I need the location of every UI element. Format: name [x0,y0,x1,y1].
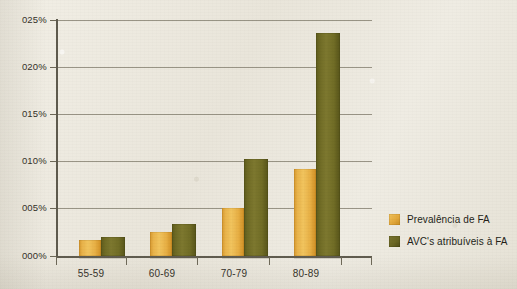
y-tick-010 [50,161,56,162]
bar-avc-80-89 [316,33,340,256]
bar-prevalencia-60-69 [150,232,172,256]
x-axis-label-80-89: 80-89 [276,268,336,279]
y-tick-005 [50,208,56,209]
legend-label-prevalencia: Prevalência de FA [407,214,490,225]
y-axis-label-010: 010% [0,155,47,166]
x-tick-4 [341,257,342,265]
y-axis-label-005: 005% [0,202,47,213]
legend-label-avc: AVC's atribuíveis à FA [407,236,508,247]
bar-prevalencia-70-79 [222,208,244,256]
y-axis-line [56,19,58,257]
y-tick-025 [50,20,56,21]
x-axis-label-55-59: 55-59 [61,268,121,279]
x-tick-0 [56,257,57,265]
x-axis-label-70-79: 70-79 [204,268,264,279]
gridline-025 [56,20,372,21]
chart-screenshot: 025% 020% 015% 010% 005% 000% 55-59 60-6… [0,0,517,289]
legend-item-avc: AVC's atribuíveis à FA [389,236,508,247]
y-axis-label-025: 025% [0,14,47,25]
y-tick-015 [50,114,56,115]
legend-item-prevalencia: Prevalência de FA [389,214,490,225]
x-tick-3 [269,257,270,265]
x-tick-1 [126,257,127,265]
bar-prevalencia-55-59 [79,240,101,256]
gold-swatch-icon [389,214,400,225]
bar-prevalencia-80-89 [294,169,316,256]
y-axis-label-015: 015% [0,108,47,119]
x-tick-5 [371,257,372,265]
x-axis-line [56,256,372,258]
y-axis-label-000: 000% [0,250,47,261]
bar-avc-55-59 [101,237,125,256]
y-tick-020 [50,67,56,68]
bar-avc-60-69 [172,224,196,256]
olive-swatch-icon [389,236,400,247]
x-axis-label-60-69: 60-69 [132,268,192,279]
x-tick-2 [197,257,198,265]
y-axis-label-020: 020% [0,61,47,72]
bar-avc-70-79 [244,159,268,256]
